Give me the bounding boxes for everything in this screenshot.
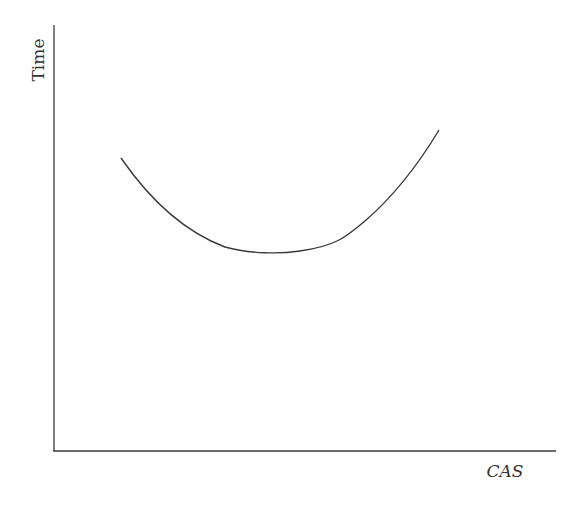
y-axis-label: Time [28,39,48,82]
chart: Time CAS [0,0,579,505]
x-axis-label: CAS [487,461,524,481]
time-curve [121,130,439,253]
